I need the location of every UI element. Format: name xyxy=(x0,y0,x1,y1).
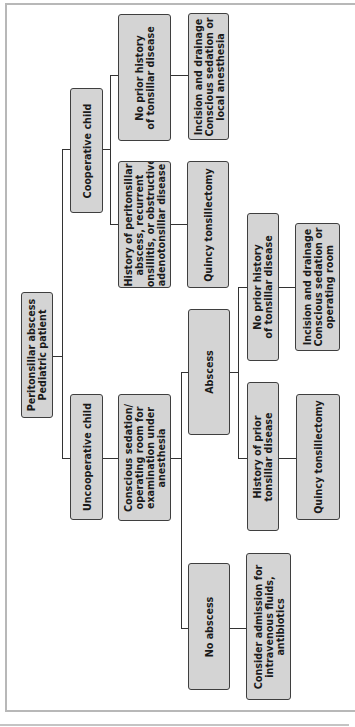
connector-line xyxy=(238,287,247,288)
connector-line xyxy=(62,458,70,459)
connector-line xyxy=(110,75,118,76)
node-abscess-incision-drainage: Incision and drainage Conscious sedation… xyxy=(295,223,340,351)
node-label: History of peritonsillar abscess, recurr… xyxy=(123,161,167,288)
connector-line xyxy=(229,372,238,373)
connector-line xyxy=(230,628,246,629)
node-label: Conscious sedation/ operating room for e… xyxy=(123,404,167,512)
connector-line xyxy=(238,287,239,459)
node-uncooperative-child: Uncooperative child xyxy=(70,394,103,520)
connector-line xyxy=(181,628,188,629)
node-coop-incision-drainage: Incision and drainage Conscious sedation… xyxy=(188,13,229,140)
node-cooperative-child: Cooperative child xyxy=(70,88,103,213)
connector-line xyxy=(278,287,295,288)
connector-line xyxy=(103,458,118,459)
connector-line xyxy=(62,149,63,459)
node-coop-history: History of peritonsillar abscess, recurr… xyxy=(118,161,171,288)
connector-line xyxy=(110,75,111,225)
connector-line xyxy=(171,458,181,459)
node-abscess: Abscess xyxy=(188,309,230,435)
node-label: Cooperative child xyxy=(81,103,92,198)
connector-line xyxy=(110,224,118,225)
node-label: Quincy tonsillectomy xyxy=(313,400,324,514)
node-label: Abscess xyxy=(204,350,215,394)
node-abscess-history: History of prior tonsillar disease xyxy=(247,382,279,531)
node-sedation-exam: Conscious sedation/ operating room for e… xyxy=(118,394,171,521)
node-label: No prior history of tonsillar disease xyxy=(252,235,274,338)
connector-line xyxy=(62,149,70,150)
node-label: Incision and drainage Conscious sedation… xyxy=(301,227,334,346)
footer-divider xyxy=(0,724,349,726)
node-label: Uncooperative child xyxy=(81,403,92,511)
connector-line xyxy=(279,458,296,459)
connector-line xyxy=(171,224,187,225)
connector-line xyxy=(238,458,247,459)
node-abscess-no-history: No prior history of tonsillar disease xyxy=(247,213,279,361)
connector-line xyxy=(181,372,188,373)
figure-frame xyxy=(5,3,355,712)
node-label: Quincy tonsillectomy xyxy=(203,168,214,282)
node-abscess-quincy-tonsillectomy: Quincy tonsillectomy xyxy=(296,394,340,520)
node-label: No abscess xyxy=(204,596,215,657)
node-label: Peritonsillar abscess Pediatric patient xyxy=(26,299,48,411)
node-label: Incision and drainage Conscious sedation… xyxy=(192,17,225,136)
node-label: History of prior tonsillar disease xyxy=(252,412,274,501)
connector-line xyxy=(103,149,110,150)
connector-line xyxy=(171,75,188,76)
node-coop-quincy-tonsillectomy: Quincy tonsillectomy xyxy=(187,161,229,288)
connector-line xyxy=(181,372,182,629)
node-root: Peritonsillar abscess Pediatric patient xyxy=(21,292,53,418)
node-label: Consider admission for intravenous fluid… xyxy=(252,564,285,689)
node-coop-no-history: No prior history of tonsillar disease xyxy=(118,14,171,141)
connector-line xyxy=(53,356,62,357)
node-no-abscess: No abscess xyxy=(188,563,230,690)
node-consider-admission: Consider admission for intravenous fluid… xyxy=(246,553,291,700)
node-label: No prior history of tonsillar disease xyxy=(134,26,156,129)
